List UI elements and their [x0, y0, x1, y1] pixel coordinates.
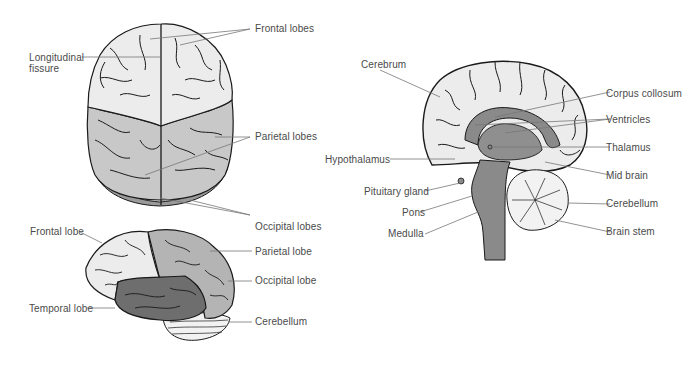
label-parietal-lobe: Parietal lobe: [255, 246, 312, 257]
brain-top-view: [82, 24, 250, 215]
label-occipital-lobe: Occipital lobe: [255, 275, 316, 286]
label-thalamus: Thalamus: [606, 142, 651, 153]
brain-stem: [472, 160, 510, 260]
label-ventricles: Ventricles: [606, 114, 650, 125]
label-pituitary-gland: Pituitary gland: [364, 186, 429, 197]
label-parietal-lobes: Parietal lobes: [255, 131, 317, 142]
temporal-region-side: [115, 276, 206, 321]
label-medulla: Medulla: [388, 228, 424, 239]
label-mid-brain: Mid brain: [606, 170, 648, 181]
label-cerebrum: Cerebrum: [361, 59, 406, 70]
label-brain-stem: Brain stem: [606, 226, 655, 237]
label-cerebellum-sagittal: Cerebellum: [606, 198, 658, 209]
label-longitudinal-fissure: Longitudinal fissure: [29, 52, 84, 74]
label-occipital-lobes: Occipital lobes: [255, 221, 322, 232]
label-corpus-collosum: Corpus collosum: [606, 88, 682, 99]
label-temporal-lobe: Temporal lobe: [29, 303, 93, 314]
label-frontal-lobes: Frontal lobes: [255, 23, 314, 34]
label-hypothalamus: Hypothalamus: [325, 154, 390, 165]
brain-side-view: [80, 230, 252, 341]
label-pons: Pons: [402, 207, 425, 218]
frontal-region-top: [88, 24, 232, 126]
brain-diagram: [0, 0, 694, 367]
label-frontal-lobe: Frontal lobe: [30, 226, 84, 237]
label-cerebellum-side: Cerebellum: [255, 316, 307, 327]
